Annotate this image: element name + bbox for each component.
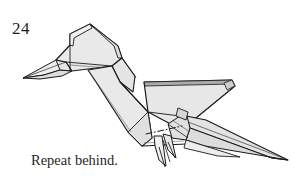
tail-group	[184, 116, 288, 160]
origami-step-figure: 24 Repeat behind.	[0, 0, 300, 187]
step-number: 24	[12, 19, 30, 38]
step-caption: Repeat behind.	[31, 152, 118, 169]
beak-group	[23, 60, 72, 79]
legs-group	[154, 134, 176, 167]
